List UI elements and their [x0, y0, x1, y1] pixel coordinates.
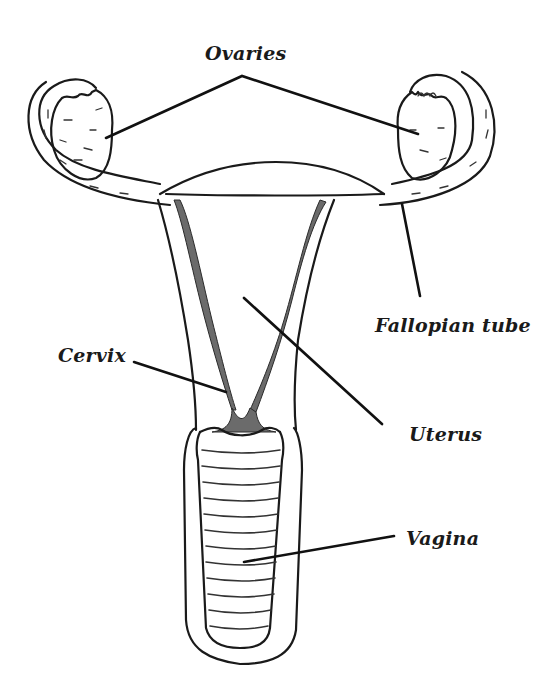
- ovaries-leader: [106, 76, 418, 138]
- cervix-leader: [134, 362, 226, 392]
- label-fallopian-tube: Fallopian tube: [375, 314, 531, 336]
- left-fallopian-tube: [28, 79, 170, 205]
- label-vagina: Vagina: [406, 527, 479, 549]
- right-ovary: [398, 92, 456, 179]
- vagina-leader: [244, 536, 394, 562]
- vaginal-canal: [197, 428, 284, 648]
- label-ovaries: Ovaries: [205, 42, 286, 64]
- label-uterus: Uterus: [409, 423, 482, 445]
- leader-lines: [106, 76, 420, 562]
- label-cervix: Cervix: [58, 344, 126, 366]
- uterus-leader: [244, 298, 382, 424]
- fallopian-tube-leader: [402, 204, 420, 296]
- uterus-fundus: [160, 162, 384, 196]
